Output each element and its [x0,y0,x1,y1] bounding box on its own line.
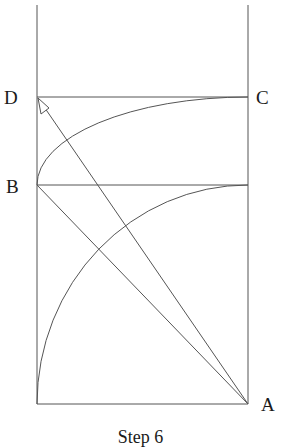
arc-upper [37,97,248,185]
point-label-d: D [4,88,18,107]
diagonal-ad [38,98,248,404]
point-label-b: B [6,177,19,196]
diagonal-ab [37,185,248,404]
step-caption: Step 6 [0,428,281,446]
point-label-c: C [256,88,269,107]
geometric-construction-diagram [0,0,281,448]
point-label-a: A [261,395,275,414]
